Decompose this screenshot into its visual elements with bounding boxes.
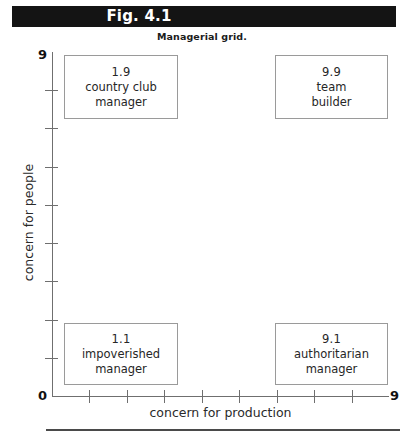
grid-cell-line2: manager xyxy=(306,362,358,377)
grid-cell-country-club-manager: 1.9 country club manager xyxy=(64,55,178,119)
grid-cell-coordinate: 1.9 xyxy=(111,65,130,80)
x-axis-title: concern for production xyxy=(52,405,389,420)
x-axis-tick xyxy=(202,390,203,403)
x-axis-line xyxy=(52,396,389,397)
grid-cell-coordinate: 9.1 xyxy=(322,332,341,347)
grid-cell-impoverished-manager: 1.1 impoverished manager xyxy=(64,323,178,385)
x-axis-tick xyxy=(314,390,315,403)
y-axis-tick xyxy=(45,205,58,206)
y-axis-line xyxy=(52,52,53,397)
x-axis-tick xyxy=(164,390,165,403)
grid-cell-line1: team xyxy=(317,80,347,95)
grid-cell-authoritarian-manager: 9.1 authoritarian manager xyxy=(275,323,388,385)
y-axis-max-label: 9 xyxy=(38,47,47,62)
x-axis-tick xyxy=(239,390,240,403)
y-axis-tick xyxy=(45,320,58,321)
grid-cell-line2: manager xyxy=(95,95,147,110)
x-axis-max-label: 9 xyxy=(390,388,399,403)
grid-cell-coordinate: 9.9 xyxy=(322,65,341,80)
grid-cell-coordinate: 1.1 xyxy=(111,332,130,347)
y-axis-tick xyxy=(45,281,58,282)
y-axis-tick xyxy=(45,90,58,91)
grid-cell-line1: country club xyxy=(85,80,157,95)
grid-cell-line2: manager xyxy=(95,362,147,377)
y-axis-tick xyxy=(45,358,58,359)
grid-cell-line1: authoritarian xyxy=(294,347,369,362)
y-axis-origin-label: 0 xyxy=(38,388,47,403)
y-axis-title: concern for people xyxy=(21,133,36,313)
x-axis-tick xyxy=(89,390,90,403)
bottom-divider-rule xyxy=(46,429,400,431)
y-axis-tick xyxy=(45,167,58,168)
x-axis-tick xyxy=(127,390,128,403)
x-axis-tick xyxy=(352,390,353,403)
y-axis-tick xyxy=(45,243,58,244)
x-axis-tick xyxy=(277,390,278,403)
grid-cell-line1: impoverished xyxy=(82,347,160,362)
grid-cell-team-builder: 9.9 team builder xyxy=(275,55,388,119)
grid-cell-line2: builder xyxy=(311,95,351,110)
y-axis-tick xyxy=(45,128,58,129)
managerial-grid-chart: 9 0 9 concern for production concern for… xyxy=(0,0,404,436)
